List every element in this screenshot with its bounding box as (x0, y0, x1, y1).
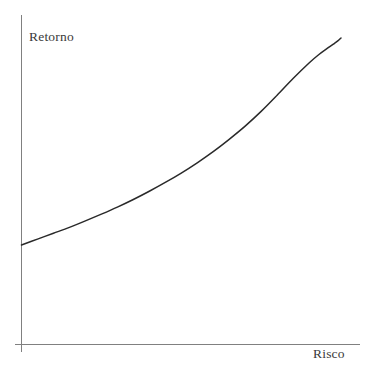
y-axis-label: Retorno (29, 30, 74, 44)
chart-canvas: Retorno Risco (0, 0, 371, 371)
chart-plot-area (0, 0, 371, 371)
x-axis-label: Risco (313, 347, 345, 361)
risk-return-curve (22, 38, 342, 245)
